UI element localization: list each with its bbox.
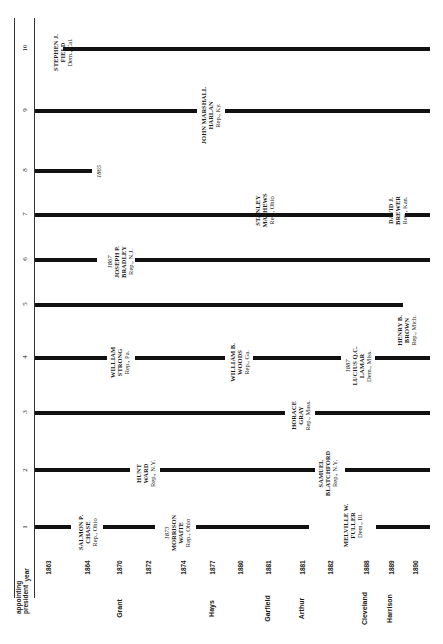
seat-4-line-b	[135, 356, 225, 360]
year-1882: 1882	[327, 556, 334, 580]
seat-7-line-c	[405, 213, 430, 217]
justice-label-hunt: HUNTWARDRep., N.Y.	[135, 449, 156, 499]
year-1877: 1877	[209, 556, 216, 580]
seat-10-line	[63, 47, 430, 51]
year-1888: 1888	[363, 556, 370, 580]
seat-number-3: 3	[21, 405, 29, 419]
justice-label-bradley: 1867JOSEPH P.BRADLEYRep., N.J.	[106, 232, 134, 292]
president-hays: Hays	[208, 584, 215, 634]
president-harrison: Harrison	[386, 584, 393, 634]
seat-4-line	[35, 356, 107, 360]
seat-8-line	[35, 169, 92, 173]
seat-number-7: 7	[21, 207, 29, 221]
seat-number-4: 4	[21, 350, 29, 364]
year-1864: 1864	[84, 556, 91, 580]
year-1890: 1890	[412, 556, 419, 580]
justice-label-field: STEPHEN J.FIELDDem., Cal.	[52, 13, 73, 93]
seat-number-6: 6	[21, 252, 29, 266]
president-cleveland: Cleveland	[361, 584, 368, 634]
seat-number-1: 1	[21, 520, 29, 534]
seat-9-line-b	[225, 109, 430, 113]
justice-label-blatchford: SAMUELBLATCHFORDRep., N.Y.	[317, 442, 338, 506]
seat-number-5: 5	[21, 297, 29, 311]
president-grant: Grant	[116, 584, 123, 634]
justice-label-brown: HENRY B.BROWNRep., Mich.	[396, 301, 417, 361]
seat-1-line	[35, 525, 71, 529]
year-1889: 1889	[388, 556, 395, 580]
president-arthur: Arthur	[298, 584, 305, 634]
seat-4-line-d	[375, 356, 430, 360]
seat-1-line-d	[376, 525, 430, 529]
justice-label-fuller: MELVILLE W.FULLERDem., Ill.	[342, 496, 363, 556]
seat-9-line	[35, 109, 197, 113]
seat-6-line	[35, 258, 97, 262]
seat-5-line	[35, 303, 403, 307]
seat-8-end-year: 1865	[95, 160, 102, 184]
justice-label-harlan: JOHN MARSHALLHARLANRep., Ky.	[200, 76, 221, 156]
seat-number-2: 2	[21, 463, 29, 477]
seat-7-line-b	[280, 213, 393, 217]
justice-label-waite: 1873MORRISONWAITERep., Ohio	[163, 506, 191, 560]
seat-3-line-b	[315, 411, 430, 415]
justice-label-chase: SALMON P.CHASERep., Ohio	[77, 508, 98, 558]
seat-2-line-b	[160, 468, 315, 472]
justice-label-gray: HORACEGRAYRep., Mass.	[290, 391, 311, 441]
justice-label-brewer: DAVID J.BREWERRep., Kan.	[387, 181, 408, 241]
seat-3-line	[35, 411, 285, 415]
seat-1-line-c	[196, 525, 309, 529]
seat-number-8: 8	[21, 163, 29, 177]
seat-1-line-b	[103, 525, 155, 529]
seat-number-10: 10	[21, 41, 29, 55]
seat-7-line	[35, 213, 280, 217]
year-1870: 1870	[116, 556, 123, 580]
year-1880: 1880	[237, 556, 244, 580]
seat-axis-line	[34, 18, 35, 598]
year-1874: 1874	[180, 556, 187, 580]
seat-2-line-c	[345, 468, 430, 472]
seat-2-line	[35, 468, 130, 472]
justice-label-woods: WILLIAM B.WOODSRep., Ga.	[229, 336, 250, 390]
header-year: year	[23, 562, 30, 582]
seat-6-line-b	[135, 258, 430, 262]
seat-number-9: 9	[21, 103, 29, 117]
year-1881-a: 1881	[265, 556, 272, 580]
seat-4-line-c	[253, 356, 341, 360]
president-garfield: Garfield	[264, 584, 271, 634]
outer-axis-line	[14, 18, 15, 598]
justice-label-lamar: 1887LUCIUS Q.C.LAMARDem., Miss.	[344, 336, 372, 396]
year-1881-b: 1881	[299, 556, 306, 580]
year-1863: 1863	[45, 556, 52, 580]
justice-label-matthews: STANLEYMATHEWSRep., Ohio	[254, 181, 275, 241]
year-1872: 1872	[145, 556, 152, 580]
justice-label-strong: WILLIAMSTRONGRep., Pa.	[109, 338, 130, 388]
